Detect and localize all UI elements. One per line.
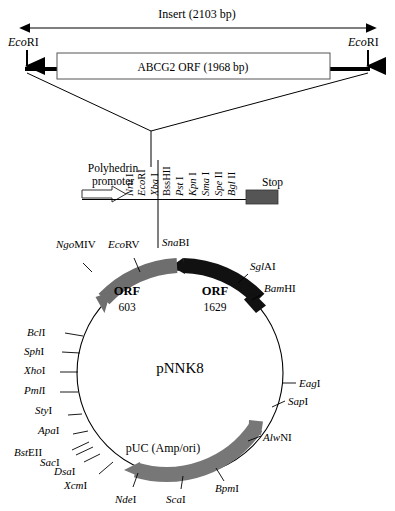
site-label-bglii: Bgl II (226, 171, 237, 196)
site-label-alwni: AlwNI (262, 431, 292, 443)
site-label-snabi: SnaBI (162, 236, 190, 248)
site-label-sphi: SphI (24, 345, 45, 357)
polyhedrin-promoter-line1: Polyhedrin (88, 162, 139, 175)
saci-leader (76, 447, 93, 455)
bsteii-leader (72, 442, 89, 450)
orf603-name-label: ORF (114, 284, 141, 298)
abcg2-orf-label: ABCG2 ORF (1968 bp) (138, 61, 249, 74)
stop-codon-box (246, 190, 278, 204)
bcli-leader (65, 333, 83, 336)
site-label-psti: Pst I (174, 176, 185, 197)
expansion-site-labels: Nru I EcoRI Xba I BssHII Pst I Kpn I Sma… (124, 166, 237, 197)
site-label-nrui: Nru I (124, 173, 135, 197)
zoom-connector-left (27, 73, 151, 131)
site-label-ecorv: EcoRV (107, 238, 140, 250)
site-label-bcli: BclI (27, 326, 46, 338)
site-label-ngomiv: NgoMIV (55, 238, 96, 250)
orf1629-number-label: 1629 (204, 301, 227, 313)
sphi-leader (62, 352, 80, 353)
site-label-bsteii: BstEII (14, 446, 42, 458)
site-label-xhoi: XhoI (23, 364, 46, 376)
site-label-ndei: NdeI (114, 493, 137, 505)
insert-length-label: Insert (2103 bp) (158, 7, 235, 21)
site-label-styi: StyI (35, 404, 52, 416)
site-label-sapi: SapI (288, 395, 309, 407)
site-label-smai: Sma I (200, 171, 211, 196)
site-label-saci: SacI (40, 456, 60, 468)
zoom-connector-right (151, 73, 368, 131)
ngomiv-leader (83, 263, 92, 272)
site-label-eagi: EagI (298, 377, 321, 389)
site-label-kpni: Kpn I (187, 172, 198, 197)
stop-label: Stop (262, 176, 283, 189)
bpmi-leader (216, 468, 224, 481)
ecori-right-label: EcoRI (347, 35, 379, 49)
xcmi-leader (99, 462, 113, 474)
puc-region-label: pUC (Amp/ori) (126, 441, 200, 455)
puc-start-cap (249, 420, 264, 435)
orf603-number-label: 603 (118, 301, 136, 313)
site-label-xcmi: XcmI (63, 479, 88, 491)
site-label-sglai: SglAI (250, 260, 276, 272)
site-label-apai: ApaI (37, 424, 60, 436)
dsai-leader (84, 454, 100, 462)
site-label-bsshii: BssHII (161, 166, 172, 196)
figure-svg: Insert (2103 bp) EcoRI EcoRI ABCG2 ORF (… (0, 0, 395, 511)
site-label-bamhi: BamHI (264, 282, 296, 294)
plasmid-name-label: pNNK8 (156, 360, 204, 376)
site-label-bpmi: BpmI (215, 482, 239, 494)
orf1629-name-label: ORF (202, 284, 229, 298)
site-label-speii: Spe II (213, 171, 224, 196)
plasmid-map-figure: Insert (2103 bp) EcoRI EcoRI ABCG2 ORF (… (0, 0, 395, 511)
site-label-ecori: EcoRI (136, 169, 147, 197)
ecori-left-label: EcoRI (7, 35, 39, 49)
styi-leader (68, 414, 82, 415)
apai-leader (73, 431, 88, 434)
site-label-xbai: Xba I (149, 172, 160, 197)
site-label-pmli: PmlI (23, 384, 46, 396)
site-label-scai: ScaI (166, 493, 186, 505)
